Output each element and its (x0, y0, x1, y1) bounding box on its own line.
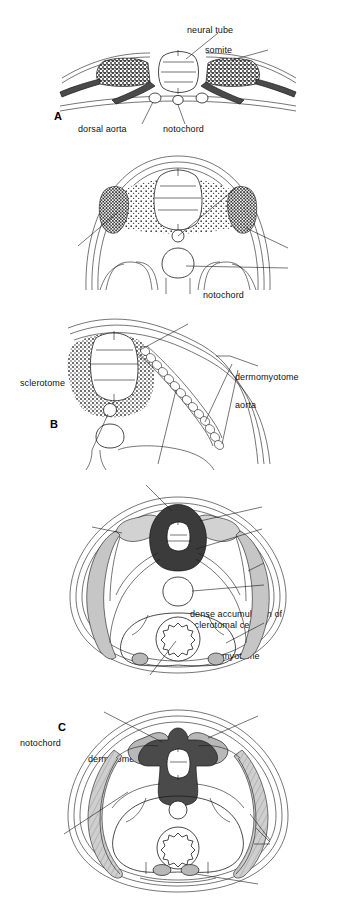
panel-d-drawing (0, 473, 356, 688)
hypomere-right (236, 531, 269, 659)
panel-b: B notochord dermomyotome sclerotome aort… (0, 140, 356, 298)
myotome-chain (138, 345, 225, 452)
dorsal-aorta-shape (163, 577, 193, 606)
notochord-shape (173, 95, 183, 104)
panel-a: A neural tube somite dorsal aorta notoch… (0, 0, 356, 140)
neural-tube-shape (90, 333, 138, 401)
rectus-abdominis-left (153, 865, 171, 876)
dorsal-aorta-left (149, 93, 161, 103)
aorta-shape (162, 248, 194, 278)
somite-right (206, 58, 259, 86)
panel-e: E dorsal ramus epaxial muscles ventral r… (0, 688, 356, 910)
dorsal-aorta-right (196, 93, 208, 103)
somite-left (97, 58, 150, 86)
hypomere-left (87, 531, 120, 659)
panel-c: C dense accumulation of sclerotomal cell… (0, 298, 356, 473)
label-notochord: notochord (163, 124, 204, 135)
aorta-shape (169, 801, 187, 819)
label-somite: somite (205, 45, 232, 56)
label-neural-tube: neural tube (187, 25, 233, 36)
panel-d: D spinal cord intermuscular septum epime… (0, 473, 356, 688)
panel-b-drawing (0, 140, 356, 298)
label-dorsal-aorta: dorsal aorta (78, 124, 127, 135)
panel-c-drawing (0, 298, 356, 473)
neural-tube-shape (154, 170, 202, 230)
somite-differentiation-figure: A neural tube somite dorsal aorta notoch… (0, 0, 356, 910)
panel-e-drawing (0, 688, 356, 910)
panel-a-letter: A (54, 110, 62, 122)
notochord-shape (104, 404, 117, 417)
